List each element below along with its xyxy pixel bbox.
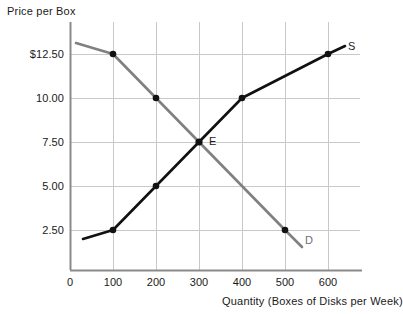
y-tick-label-10.00: 10.00 bbox=[4, 92, 64, 104]
x-tick-label-100: 100 bbox=[104, 276, 123, 288]
y-axis-title: Price per Box bbox=[7, 5, 76, 17]
demand-point-500 bbox=[282, 227, 289, 234]
vertical-gridlines bbox=[114, 22, 329, 270]
x-tick-label-400: 400 bbox=[233, 276, 252, 288]
demand-curve-label: D bbox=[305, 234, 313, 246]
x-tick-label-200: 200 bbox=[147, 276, 166, 288]
demand-curve bbox=[76, 43, 302, 247]
y-tick-label-7.50: 7.50 bbox=[4, 136, 64, 148]
x-tick-label-500: 500 bbox=[276, 276, 295, 288]
supply-point-600 bbox=[325, 51, 332, 58]
supply-point-200 bbox=[153, 183, 160, 190]
x-tick-label-300: 300 bbox=[190, 276, 209, 288]
demand-point-200 bbox=[153, 95, 160, 102]
y-tick-label-2.50: 2.50 bbox=[4, 224, 64, 236]
equilibrium-point-marker bbox=[195, 138, 202, 145]
equilibrium-point-label: E bbox=[209, 135, 216, 147]
x-axis-title: Quantity (Boxes of Disks per Week) bbox=[222, 295, 403, 307]
demand-point-100 bbox=[110, 51, 117, 58]
supply-point-400 bbox=[239, 95, 246, 102]
y-tick-label-5.00: 5.00 bbox=[4, 180, 64, 192]
supply-point-100 bbox=[110, 227, 117, 234]
x-tick-label-600: 600 bbox=[319, 276, 338, 288]
x-tick-label-0: 0 bbox=[67, 276, 73, 288]
y-tick-label-12.50: $12.50 bbox=[4, 48, 64, 60]
supply-curve-label: S bbox=[348, 40, 355, 52]
